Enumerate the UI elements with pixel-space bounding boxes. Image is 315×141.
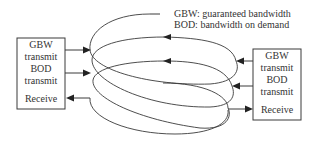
spiral-curve-2 (92, 37, 233, 107)
left-gbw-label: GBW (29, 39, 53, 50)
right-transmit-label-1: transmit (261, 62, 294, 73)
right-bod-label: BOD (266, 74, 287, 85)
left-transmit-label-1: transmit (25, 51, 58, 62)
arrow-left-icon (66, 95, 74, 102)
curve-arrowheads (163, 34, 171, 64)
legend-bod: BOD: bandwidth on demand (174, 19, 289, 30)
spiral-curve-4 (165, 37, 236, 61)
spiral-channels (90, 14, 237, 134)
left-receive-label: Receive (25, 93, 58, 104)
bandwidth-spiral-diagram: GBW: guaranteed bandwidth BOD: bandwidth… (0, 0, 315, 141)
right-transmit-label-2: transmit (261, 86, 294, 97)
legend-gbw: GBW: guaranteed bandwidth (174, 8, 291, 19)
left-transmit-label-2: transmit (25, 75, 58, 86)
arrowhead-icon (163, 34, 171, 40)
left-node: GBW transmit BOD transmit Receive (17, 38, 91, 109)
right-receive-label: Receive (261, 104, 294, 115)
arrow-right-icon (83, 70, 91, 77)
right-gbw-label: GBW (265, 50, 289, 61)
left-bod-label: BOD (30, 63, 51, 74)
spiral-curve-3 (93, 61, 229, 128)
right-node: GBW transmit BOD transmit Receive (228, 49, 301, 120)
legend: GBW: guaranteed bandwidth BOD: bandwidth… (150, 8, 291, 30)
arrow-right-icon (245, 106, 253, 113)
arrowhead-icon (163, 58, 171, 64)
